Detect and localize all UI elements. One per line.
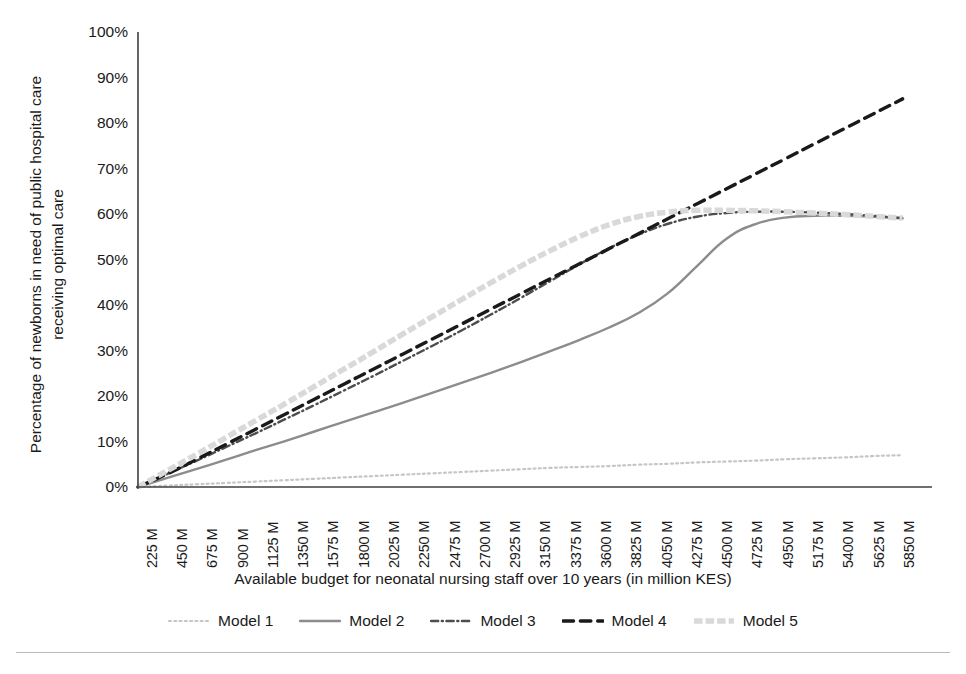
legend-label: Model 4 xyxy=(612,612,667,630)
y-tick-label: 90% xyxy=(62,69,128,87)
legend-item-model-1[interactable]: Model 1 xyxy=(168,612,273,630)
legend-swatch-model-2-icon xyxy=(299,614,341,628)
legend-swatch-model-1-icon xyxy=(168,614,210,628)
plot-svg xyxy=(138,32,932,487)
x-tick-label: 2475 M xyxy=(447,521,463,568)
x-tick-label: 1125 M xyxy=(265,522,281,568)
legend-item-model-4[interactable]: Model 4 xyxy=(562,612,667,630)
series-line-model-5 xyxy=(138,210,903,487)
chart-legend: Model 1Model 2Model 3Model 4Model 5 xyxy=(0,612,966,630)
legend-swatch-model-3-icon xyxy=(430,614,472,628)
y-tick-label: 0% xyxy=(62,478,128,496)
x-tick-label: 2700 M xyxy=(477,521,493,568)
y-tick-label: 70% xyxy=(62,160,128,178)
x-axis-title: Available budget for neonatal nursing st… xyxy=(0,570,966,588)
legend-item-model-5[interactable]: Model 5 xyxy=(693,612,798,630)
series-line-model-3 xyxy=(138,212,903,487)
series-line-model-1 xyxy=(138,455,903,487)
legend-label: Model 5 xyxy=(743,612,798,630)
y-tick-label: 100% xyxy=(62,23,128,41)
y-tick-label: 20% xyxy=(62,387,128,405)
legend-swatch-model-4-icon xyxy=(562,614,604,628)
x-tick-label: 5400 M xyxy=(840,521,856,568)
x-tick-label: 5175 M xyxy=(810,521,826,568)
x-tick-label: 3150 M xyxy=(537,521,553,568)
plot-area xyxy=(138,32,932,487)
x-tick-label: 4950 M xyxy=(780,521,796,568)
x-tick-label: 2025 M xyxy=(386,521,402,568)
legend-item-model-2[interactable]: Model 2 xyxy=(299,612,404,630)
legend-label: Model 1 xyxy=(218,612,273,630)
x-tick-label: 450 M xyxy=(174,529,190,568)
x-tick-label: 3825 M xyxy=(628,521,644,568)
legend-swatch-model-5-icon xyxy=(693,614,735,628)
x-tick-label: 2925 M xyxy=(507,521,523,568)
x-tick-label: 5850 M xyxy=(901,521,917,568)
series-line-model-2 xyxy=(138,216,903,487)
x-tick-label: 900 M xyxy=(235,529,251,568)
y-tick-label: 30% xyxy=(62,342,128,360)
x-tick-label: 3600 M xyxy=(598,521,614,568)
y-tick-label: 10% xyxy=(62,433,128,451)
chart-figure: Percentage of newborns in need of public… xyxy=(0,0,966,674)
legend-label: Model 3 xyxy=(480,612,535,630)
y-tick-label: 80% xyxy=(62,114,128,132)
x-tick-label: 4725 M xyxy=(749,521,765,568)
x-tick-label: 3375 M xyxy=(568,521,584,568)
x-tick-label: 225 M xyxy=(144,529,160,568)
x-tick-label: 1350 M xyxy=(295,521,311,568)
legend-item-model-3[interactable]: Model 3 xyxy=(430,612,535,630)
x-tick-label: 4275 M xyxy=(689,521,705,568)
x-tick-label: 4050 M xyxy=(659,521,675,568)
y-tick-label: 40% xyxy=(62,296,128,314)
legend-label: Model 2 xyxy=(349,612,404,630)
x-tick-label: 1800 M xyxy=(356,521,372,568)
x-tick-label: 2250 M xyxy=(416,521,432,568)
x-tick-label: 5625 M xyxy=(871,521,887,568)
x-axis-tick-labels: 225 M450 M675 M900 M1125 M1350 M1575 M18… xyxy=(138,492,932,568)
series-line-model-4 xyxy=(138,99,903,487)
y-tick-label: 60% xyxy=(62,205,128,223)
x-tick-label: 4500 M xyxy=(719,521,735,568)
y-tick-label: 50% xyxy=(62,251,128,269)
x-tick-label: 1575 M xyxy=(325,521,341,568)
footer-divider xyxy=(16,652,950,653)
x-tick-label: 675 M xyxy=(204,529,220,568)
